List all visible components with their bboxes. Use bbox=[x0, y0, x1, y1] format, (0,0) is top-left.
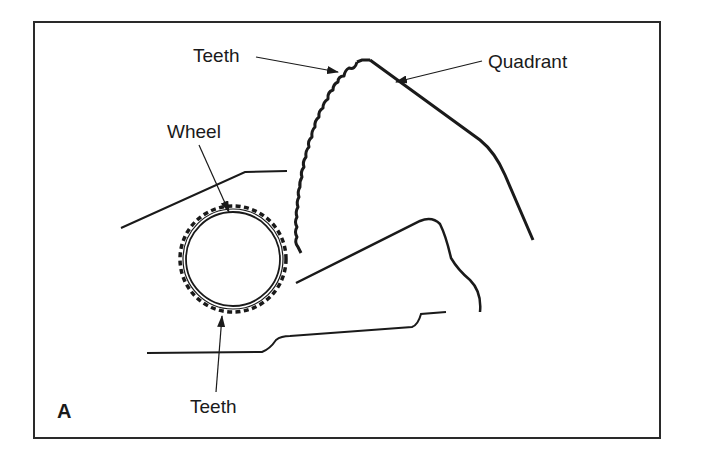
label-quadrant: Quadrant bbox=[488, 51, 568, 72]
wheel-quadrant-diagram: Teeth Quadrant Wheel Teeth A bbox=[0, 0, 706, 462]
wheel-body bbox=[186, 212, 280, 306]
figure-frame bbox=[34, 22, 660, 438]
teeth-top-leader bbox=[256, 57, 338, 72]
label-wheel: Wheel bbox=[167, 121, 221, 142]
quadrant-body bbox=[296, 219, 480, 312]
panel-letter: A bbox=[57, 400, 71, 422]
housing-upper-line bbox=[121, 171, 287, 228]
label-teeth-bottom: Teeth bbox=[190, 396, 236, 417]
quadrant-tip bbox=[357, 60, 370, 62]
quadrant-straight-edge bbox=[370, 60, 533, 240]
quadrant-leader bbox=[396, 61, 482, 82]
teeth-bottom-leader bbox=[216, 316, 222, 392]
housing-lower-line bbox=[147, 312, 446, 353]
wheel-leader bbox=[199, 145, 229, 212]
quadrant-teeth bbox=[296, 62, 358, 253]
label-teeth-top: Teeth bbox=[193, 45, 239, 66]
